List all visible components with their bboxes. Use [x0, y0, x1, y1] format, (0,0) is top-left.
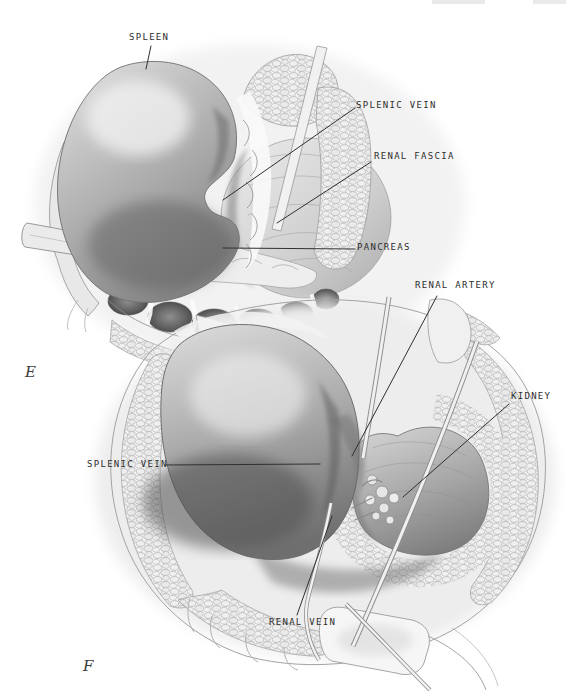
panel-letter-e: E [25, 364, 36, 380]
panel-letter-f: F [83, 658, 93, 674]
label-renal-fascia: RENAL FASCIA [374, 151, 455, 161]
spleen-organ [57, 61, 239, 302]
label-spleen: SPLEEN [129, 32, 169, 42]
medical-illustration-svg [0, 0, 574, 691]
label-splenic-vein-e: SPLENIC VEIN [356, 100, 437, 110]
panel-f-illustration [95, 297, 555, 690]
atlas-page: SPLEEN SPLENIC VEIN RENAL FASCIA PANCREA… [0, 0, 574, 691]
label-splenic-vein-f: SPLENIC VEIN [87, 459, 168, 469]
label-pancreas: PANCREAS [357, 242, 411, 252]
label-renal-artery: RENAL ARTERY [415, 280, 496, 290]
retractor-blade-right [428, 299, 471, 363]
label-kidney: KIDNEY [511, 391, 551, 401]
label-renal-vein: RENAL VEIN [269, 617, 336, 627]
